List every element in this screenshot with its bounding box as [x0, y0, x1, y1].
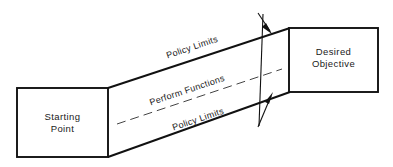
starting-point-label-line2: Point	[51, 123, 75, 134]
desired-objective-label-line2: Objective	[312, 58, 355, 69]
corridor-diagram: Starting Point Desired Objective Policy …	[0, 0, 393, 167]
desired-objective-box[interactable]: Desired Objective	[289, 28, 378, 92]
section-arrow-top-head-icon	[262, 23, 272, 34]
starting-point-label-line1: Starting	[45, 111, 81, 122]
starting-point-box[interactable]: Starting Point	[17, 88, 108, 157]
diagram-canvas: Starting Point Desired Objective Policy …	[0, 0, 393, 167]
desired-objective-label-line1: Desired	[316, 46, 352, 57]
